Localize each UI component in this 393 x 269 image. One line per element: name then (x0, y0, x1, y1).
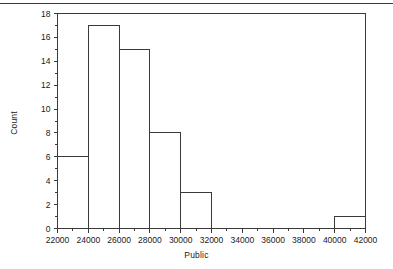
histogram-bar (181, 193, 212, 229)
histogram-bar (88, 25, 119, 228)
y-axis-tick-label: 6 (46, 152, 51, 162)
x-axis-tick-label: 34000 (230, 235, 254, 245)
x-axis-tick-label: 32000 (200, 235, 224, 245)
x-axis-tick-label: 30000 (169, 235, 193, 245)
x-axis-tick-label: 24000 (76, 235, 100, 245)
y-axis-tick-label: 4 (46, 176, 51, 186)
x-axis-title: Public (0, 250, 393, 260)
y-axis-tick-label: 12 (41, 80, 51, 90)
y-axis-tick-label: 0 (46, 224, 51, 234)
x-axis-tick-label: 38000 (292, 235, 316, 245)
x-axis-tick-label: 42000 (354, 235, 378, 245)
histogram-bars (58, 25, 366, 228)
y-axis-tick-label: 18 (41, 9, 51, 19)
y-axis-tick-label: 2 (46, 200, 51, 210)
histogram-plot-area: 0246810121416182200024000260002800030000… (0, 0, 393, 269)
x-axis-tick-label: 22000 (46, 235, 70, 245)
y-axis-tick-label: 14 (41, 56, 51, 66)
histogram-bar (58, 157, 89, 229)
y-axis-tick-label: 8 (46, 128, 51, 138)
x-axis-tick-label: 36000 (261, 235, 285, 245)
y-axis-tick-label: 10 (41, 104, 51, 114)
x-axis-tick-label: 40000 (323, 235, 347, 245)
x-axis-tick-label: 26000 (107, 235, 131, 245)
x-axis-tick-label: 28000 (138, 235, 162, 245)
histogram-bar (119, 49, 150, 228)
histogram-figure: 0246810121416182200024000260002800030000… (0, 0, 393, 269)
histogram-bar (150, 133, 181, 229)
y-axis-title: Count (9, 93, 19, 153)
y-axis-tick-label: 16 (41, 32, 51, 42)
histogram-bar (335, 217, 366, 229)
